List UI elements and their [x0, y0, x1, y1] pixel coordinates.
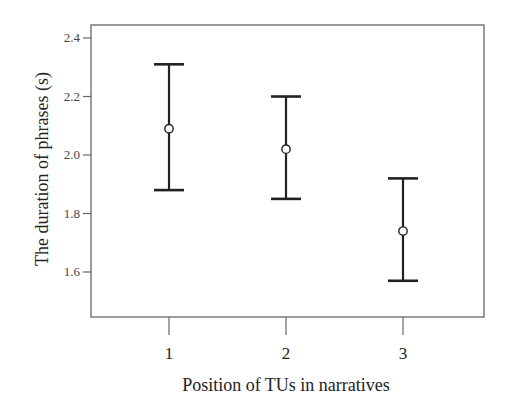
- mean-marker: [282, 145, 290, 153]
- mean-marker: [399, 227, 407, 235]
- plot-frame: [91, 25, 484, 317]
- y-tick-label: 2.0: [64, 147, 80, 162]
- x-tick-label: 3: [399, 344, 408, 363]
- y-tick-label: 2.4: [64, 30, 81, 45]
- y-tick-label: 1.8: [64, 206, 80, 221]
- x-axis-label: Position of TUs in narratives: [182, 375, 390, 395]
- y-tick-label: 2.2: [64, 89, 80, 104]
- x-axis: 123: [165, 317, 408, 363]
- y-axis: 1.61.82.02.22.4: [64, 30, 91, 279]
- x-tick-label: 2: [282, 344, 291, 363]
- y-tick-label: 1.6: [64, 264, 81, 279]
- error-bars: [154, 64, 418, 280]
- error-bar-1: [154, 64, 184, 190]
- mean-marker: [165, 124, 173, 132]
- x-tick-label: 1: [165, 344, 174, 363]
- y-axis-label: The duration of phrases (s): [32, 72, 53, 266]
- error-bar-3: [388, 178, 418, 280]
- error-bar-chart: 1.61.82.02.22.4 123 Position of TUs in n…: [0, 0, 513, 415]
- error-bar-2: [271, 97, 301, 199]
